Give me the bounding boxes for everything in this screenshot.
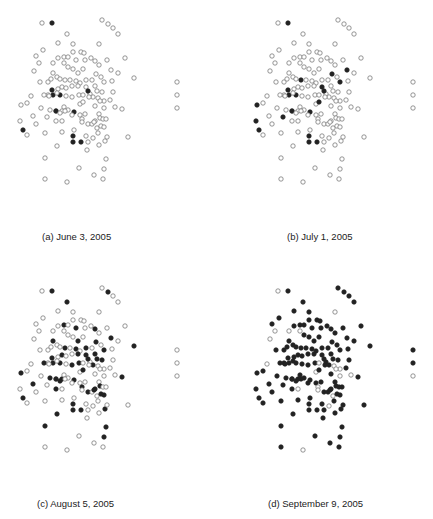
node-filled <box>299 346 303 350</box>
node-filled <box>296 398 300 402</box>
node-filled <box>347 358 351 362</box>
node-filled <box>411 348 415 352</box>
node-empty <box>333 310 337 314</box>
node-filled <box>308 396 312 400</box>
node-empty <box>265 362 269 366</box>
node-filled <box>341 326 345 330</box>
node-filled <box>279 424 283 428</box>
node-filled <box>275 374 279 378</box>
node-filled <box>300 354 304 358</box>
node-filled <box>341 403 345 407</box>
node-filled <box>287 339 291 343</box>
node-empty <box>287 329 291 333</box>
node-filled <box>329 327 333 331</box>
node-filled <box>322 408 326 412</box>
node-filled <box>322 357 326 361</box>
node-filled <box>274 348 278 352</box>
node-filled <box>302 333 306 337</box>
node-filled <box>315 408 319 412</box>
node-empty <box>334 367 338 371</box>
caption-b: (b) July 1, 2005 <box>287 231 352 242</box>
node-filled <box>331 357 335 361</box>
node-filled <box>319 326 323 330</box>
node-filled <box>281 383 285 387</box>
node-filled <box>310 326 314 330</box>
node-filled <box>307 402 311 406</box>
node-empty <box>338 374 342 378</box>
node-filled <box>307 408 311 412</box>
node-filled <box>285 345 289 349</box>
node-empty <box>349 373 353 377</box>
node-filled <box>329 352 333 356</box>
node-empty <box>276 289 280 293</box>
node-filled <box>283 362 287 366</box>
node-filled <box>304 346 308 350</box>
node-filled <box>292 309 296 313</box>
node-filled <box>340 425 344 429</box>
node-filled <box>291 359 295 363</box>
node-filled <box>307 318 311 322</box>
node-filled <box>332 399 336 403</box>
network-graph-d <box>0 0 433 519</box>
node-filled <box>411 361 415 365</box>
node-filled <box>325 324 329 328</box>
node-filled <box>329 372 333 376</box>
caption-d: (d) September 9, 2005 <box>268 498 363 509</box>
node-filled <box>359 324 363 328</box>
node-filled <box>299 377 303 381</box>
node-empty <box>411 374 415 378</box>
node-filled <box>277 316 281 320</box>
node-filled <box>352 339 356 343</box>
node-filled <box>342 290 346 294</box>
node-filled <box>284 376 288 380</box>
node-empty <box>316 388 320 392</box>
node-filled <box>336 286 340 290</box>
node-filled <box>279 445 283 449</box>
node-filled <box>254 387 258 391</box>
node-filled <box>312 339 316 343</box>
node-filled <box>270 390 274 394</box>
node-filled <box>333 411 337 415</box>
node-filled <box>292 324 296 328</box>
node-filled <box>320 402 324 406</box>
caption-c: (c) August 5, 2005 <box>37 498 114 509</box>
node-filled <box>321 416 325 420</box>
node-empty <box>298 329 302 333</box>
node-filled <box>362 403 366 407</box>
node-empty <box>327 404 331 408</box>
node-filled <box>330 340 334 344</box>
node-filled <box>345 336 349 340</box>
node-filled <box>352 300 356 304</box>
node-filled <box>267 382 271 386</box>
node-empty <box>296 387 300 391</box>
node-filled <box>306 363 310 367</box>
node-filled <box>312 352 316 356</box>
node-filled <box>294 345 298 349</box>
node-filled <box>346 347 350 351</box>
node-empty <box>273 329 277 333</box>
node-filled <box>338 348 342 352</box>
node-filled <box>319 380 323 384</box>
node-filled <box>294 379 298 383</box>
node-filled <box>286 356 290 360</box>
node-filled <box>261 369 265 373</box>
node-filled <box>347 294 351 298</box>
node-filled <box>306 381 310 385</box>
caption-a: (a) June 3, 2005 <box>42 231 111 242</box>
node-filled <box>290 387 294 391</box>
node-filled <box>317 335 321 339</box>
node-filled <box>301 300 305 304</box>
node-filled <box>302 323 306 327</box>
node-filled <box>335 343 339 347</box>
node-filled <box>286 289 290 293</box>
node-filled <box>368 344 372 348</box>
node-filled <box>279 399 283 403</box>
node-filled <box>338 393 342 397</box>
node-empty <box>268 337 272 341</box>
node-filled <box>255 371 259 375</box>
node-filled <box>320 346 324 350</box>
node-filled <box>300 362 304 366</box>
node-empty <box>301 448 305 452</box>
node-filled <box>291 412 295 416</box>
node-filled <box>257 396 261 400</box>
